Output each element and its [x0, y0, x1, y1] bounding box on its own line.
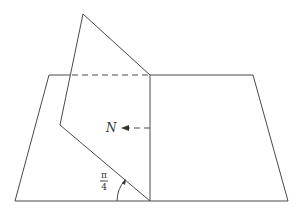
angle-arrowhead-icon	[122, 179, 126, 185]
normal-label: N	[105, 121, 117, 135]
angle-denominator: 4	[101, 182, 107, 192]
angle-label: π 4	[100, 170, 108, 192]
horizontal-plane	[15, 75, 288, 201]
two-planes-diagram: N π 4	[0, 0, 303, 212]
angle-numerator: π	[101, 170, 107, 180]
